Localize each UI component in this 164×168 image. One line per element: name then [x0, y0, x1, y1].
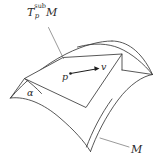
saddle-surface-bottom-cusp-inner — [87, 99, 113, 147]
label-tangent-plane: TsubsubpM — [27, 7, 57, 18]
tangent-plane-parallelogram — [25, 54, 123, 108]
label-vector-v: v — [101, 62, 106, 72]
saddle-surface-left-wedge-upper-arm — [11, 79, 25, 99]
leader-line-manifold — [100, 138, 129, 147]
label-manifold-M: M — [131, 144, 142, 155]
label-angle-alpha: α — [27, 88, 33, 98]
saddle-surface-front-left-edge — [11, 98, 91, 152]
tangent-plane-right-extension-line — [122, 70, 153, 75]
figure-canvas: TsubsubpM α p v M — [0, 0, 164, 168]
label-tangent-plane-superscript: sub — [34, 3, 46, 10]
leader-line-tangent-plane — [49, 28, 64, 59]
label-tangent-plane-manifold: M — [46, 6, 57, 19]
label-tangent-plane-subscript: p — [35, 13, 39, 20]
label-point-p: p — [62, 72, 68, 82]
label-tangent-plane-scripts: subsubp — [34, 7, 46, 18]
label-tangent-plane-base: T — [27, 6, 34, 19]
